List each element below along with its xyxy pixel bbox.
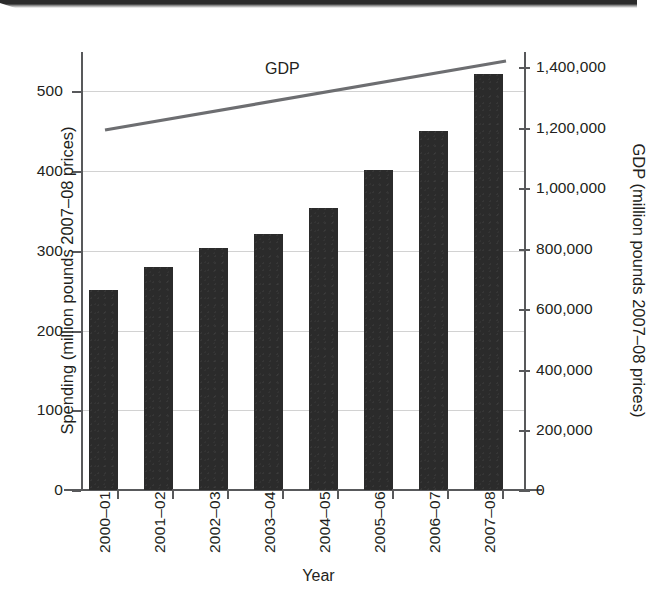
bar-2002-03[interactable] [199, 248, 228, 490]
x-axis-tick [282, 489, 284, 499]
bar-2003-04[interactable] [254, 234, 283, 490]
y-axis-right-tick-label: 1,200,000 [536, 119, 606, 137]
x-axis-tick [172, 489, 174, 499]
bar-2007-08[interactable] [474, 74, 503, 490]
x-axis-tick [502, 489, 504, 499]
x-axis-tick [117, 489, 119, 499]
y-axis-right-tick-label: 0 [536, 481, 545, 499]
y-axis-right-tick-label: 600,000 [536, 300, 593, 318]
bar-2004-05[interactable] [309, 208, 338, 490]
x-axis-tick [447, 489, 449, 499]
y-axis-left-tick-label: 0 [54, 481, 63, 499]
y-axis-right-tick-label: 400,000 [536, 361, 593, 379]
gridline-400 [81, 171, 525, 172]
x-axis-tick-label-2007-08: 2007–08 [481, 491, 499, 553]
y-axis-right-tick-label: 1,400,000 [536, 58, 606, 76]
bar-2000-01[interactable] [89, 290, 118, 490]
x-axis-tick [392, 489, 394, 499]
y-axis-right-tick [519, 370, 530, 372]
bar-2006-07[interactable] [419, 131, 448, 490]
x-axis-tick-label-2003-04: 2003–04 [261, 491, 279, 553]
y-axis-left-title: Spending (million pounds 2007–08 prices) [58, 81, 77, 481]
bar-2001-02[interactable] [144, 267, 173, 490]
y-axis-right-title: GDP (million pounds 2007–08 prices) [629, 81, 648, 481]
gdp-series-label: GDP [265, 60, 300, 78]
gridline-300 [81, 251, 525, 252]
y-axis-right-line [524, 52, 526, 491]
y-axis-right-tick [519, 430, 530, 432]
x-axis-line [64, 489, 542, 491]
y-axis-right-tick [519, 249, 530, 251]
x-axis-tick [337, 489, 339, 499]
x-axis-tick-label-2002-03: 2002–03 [206, 491, 224, 553]
y-axis-right-tick-label: 1,000,000 [536, 179, 606, 197]
y-axis-right-tick [519, 67, 530, 69]
y-axis-left-tick [72, 490, 81, 492]
x-axis-tick-label-2001-02: 2001–02 [151, 491, 169, 553]
y-axis-right-tick [519, 188, 530, 190]
bar-2005-06[interactable] [364, 170, 393, 490]
gridline-500 [81, 91, 525, 92]
y-axis-right-tick [519, 490, 530, 492]
y-axis-right-tick-label: 200,000 [536, 421, 593, 439]
x-axis-title: Year [0, 567, 637, 585]
y-axis-left-line [81, 52, 83, 491]
y-axis-right-tick-label: 800,000 [536, 240, 593, 258]
y-axis-right-tick [519, 128, 530, 130]
x-axis-tick-label-2006-07: 2006–07 [426, 491, 444, 553]
y-axis-right-tick [519, 309, 530, 311]
x-axis-tick [227, 489, 229, 499]
x-axis-tick-label-2004-05: 2004–05 [316, 491, 334, 553]
x-axis-tick-label-2000-01: 2000–01 [96, 491, 114, 553]
x-axis-tick-label-2005-06: 2005–06 [371, 491, 389, 553]
